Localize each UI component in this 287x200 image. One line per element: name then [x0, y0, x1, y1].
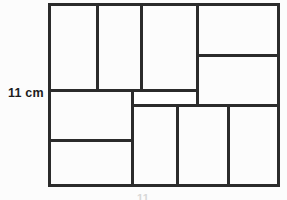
height-dimension-label: 11 cm: [8, 86, 44, 100]
tile-top-second: [97, 3, 141, 90]
outer-edge-left: [48, 3, 51, 187]
tile-bottom-second: [132, 105, 177, 186]
tile-bottom-third: [177, 105, 228, 186]
tile-right-upper-mid: [197, 55, 280, 105]
tile-middle-sliver: [132, 90, 197, 105]
divider-bottom-h1: [48, 139, 133, 142]
squared-rectangle-diagram: [0, 0, 287, 200]
tile-bottom-right: [228, 105, 280, 186]
outer-edge-top: [48, 3, 280, 6]
divider-bottom-v2: [227, 104, 230, 187]
divider-bottom-v1: [176, 104, 179, 187]
divider-middle-v1: [131, 89, 134, 185]
tile-top-right: [197, 3, 280, 55]
divider-middle-h1: [48, 89, 199, 92]
tile-middle-left: [48, 90, 132, 140]
divider-right-h1: [196, 54, 280, 57]
divider-middle-h2: [132, 104, 280, 107]
divider-top-v1: [96, 3, 99, 92]
tile-top-left: [48, 3, 97, 90]
width-dimension-label: 11: [137, 192, 149, 200]
figure-root: 11 cm 11: [0, 0, 287, 200]
tile-top-third: [141, 3, 197, 90]
divider-top-v2: [140, 3, 143, 92]
tile-bottom-left: [48, 140, 132, 186]
outer-edge-bottom: [48, 184, 280, 187]
outer-edge-right: [277, 3, 280, 187]
